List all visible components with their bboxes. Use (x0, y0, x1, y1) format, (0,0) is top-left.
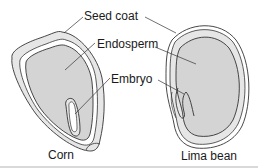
caption-lima-bean: Lima bean (181, 150, 237, 162)
label-endosperm: Endosperm (97, 38, 158, 50)
leader-seed-coat-corn (64, 17, 83, 33)
lima-bean-endosperm (176, 37, 239, 136)
leader-seed-coat-bean (145, 17, 176, 33)
label-seed-coat: Seed coat (84, 10, 138, 22)
lima-bean-seed (166, 26, 249, 149)
label-embryo: Embryo (111, 73, 152, 85)
caption-corn: Corn (48, 149, 74, 161)
corn-endosperm (26, 45, 93, 140)
corn-seed (12, 31, 104, 151)
bottom-divider (0, 166, 258, 168)
